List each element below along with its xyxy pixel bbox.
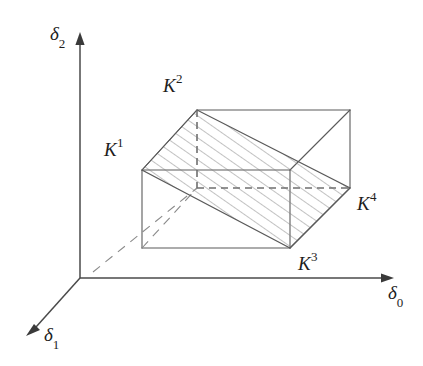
vertex-label-k3: K3 bbox=[298, 252, 318, 273]
axis-delta2-arrowhead bbox=[75, 32, 84, 45]
axis-label-delta0-subscript: 0 bbox=[397, 295, 404, 310]
axis-delta0 bbox=[80, 273, 394, 282]
axis-label-delta2-symbol: δ bbox=[50, 23, 59, 44]
axis-label-delta0-symbol: δ bbox=[388, 282, 397, 303]
vertex-label-k4-symbol: K bbox=[357, 193, 370, 214]
hatched-plane-fill bbox=[142, 110, 350, 248]
geometry-canvas bbox=[0, 0, 423, 366]
front-face-diagonal bbox=[142, 188, 197, 248]
vertex-label-k3-symbol: K bbox=[298, 253, 311, 274]
vertex-label-k2-superscript: 2 bbox=[176, 71, 183, 86]
vertex-label-k2: K2 bbox=[163, 74, 183, 95]
axis-delta2 bbox=[75, 32, 84, 278]
vertex-label-k4: K4 bbox=[357, 192, 377, 213]
box-edge-top-right-connector bbox=[290, 110, 350, 170]
hatched-plane bbox=[142, 110, 350, 248]
axis-label-delta1-symbol: δ bbox=[44, 324, 53, 345]
vertex-label-k3-superscript: 3 bbox=[311, 249, 318, 264]
axis-label-delta2-subscript: 2 bbox=[59, 36, 66, 51]
dashed-projection-ray bbox=[93, 188, 197, 272]
axis-label-delta1: δ1 bbox=[44, 325, 59, 348]
figure-root: δ2 δ0 δ1 K1 K2 K3 K4 bbox=[0, 0, 423, 366]
vertex-label-k2-symbol: K bbox=[163, 75, 176, 96]
axis-label-delta1-subscript: 1 bbox=[53, 337, 60, 352]
vertex-label-k1: K1 bbox=[104, 138, 124, 159]
axis-delta1-line bbox=[36, 278, 80, 327]
axis-label-delta2: δ2 bbox=[50, 24, 65, 47]
vertex-label-k1-superscript: 1 bbox=[117, 135, 124, 150]
axis-label-delta0: δ0 bbox=[388, 283, 403, 306]
vertex-label-k4-superscript: 4 bbox=[370, 189, 377, 204]
vertex-label-k1-symbol: K bbox=[104, 139, 117, 160]
